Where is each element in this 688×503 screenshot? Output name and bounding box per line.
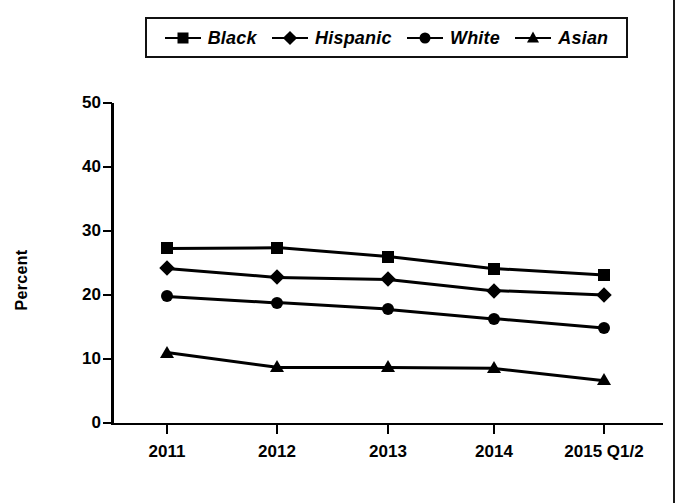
legend-label: White bbox=[450, 29, 500, 47]
legend-item-black: Black bbox=[165, 29, 257, 47]
series-line-segment bbox=[494, 367, 604, 382]
circle-marker-icon bbox=[419, 32, 430, 43]
data-point-triangle-marker-icon bbox=[381, 360, 395, 372]
data-point-triangle-marker-icon bbox=[597, 373, 611, 385]
y-axis-tick bbox=[103, 166, 112, 168]
legend-item-asian: Asian bbox=[515, 29, 608, 47]
legend-marker-diamond-icon bbox=[272, 30, 308, 46]
y-axis-title: Percent bbox=[13, 250, 31, 311]
page-border-rule bbox=[673, 0, 675, 503]
legend-item-white: White bbox=[407, 29, 500, 47]
x-axis-tick bbox=[603, 424, 605, 434]
diamond-marker-icon bbox=[283, 30, 297, 44]
y-axis-tick bbox=[103, 294, 112, 296]
series-asian bbox=[113, 103, 663, 423]
series-line-segment bbox=[277, 366, 388, 369]
legend-items: BlackHispanicWhiteAsian bbox=[147, 19, 626, 56]
data-point-triangle-marker-icon bbox=[487, 361, 501, 373]
series-line-segment bbox=[167, 351, 277, 368]
y-axis-tick bbox=[103, 102, 112, 104]
x-axis-tick bbox=[276, 424, 278, 434]
y-axis-tick bbox=[103, 422, 112, 424]
x-axis-tick-label: 2013 bbox=[369, 442, 407, 462]
legend-label: Asian bbox=[558, 29, 608, 47]
y-axis-tick-label: 40 bbox=[67, 157, 101, 177]
data-point-triangle-marker-icon bbox=[160, 346, 174, 358]
data-point-triangle-marker-icon bbox=[270, 360, 284, 372]
legend-item-hispanic: Hispanic bbox=[272, 29, 392, 47]
chart-figure: BlackHispanicWhiteAsian Percent 01020304… bbox=[0, 0, 688, 503]
x-axis-tick bbox=[387, 424, 389, 434]
legend-label: Black bbox=[208, 29, 257, 47]
chart-legend: BlackHispanicWhiteAsian bbox=[145, 17, 628, 58]
y-axis-tick bbox=[103, 358, 112, 360]
x-axis-tick-label: 2012 bbox=[258, 442, 296, 462]
x-axis-tick bbox=[493, 424, 495, 434]
legend-marker-triangle-icon bbox=[515, 30, 551, 46]
x-axis-tick-label: 2011 bbox=[149, 442, 186, 462]
x-axis-tick-label: 2015 Q1/2 bbox=[564, 442, 643, 462]
y-axis-tick-label: 0 bbox=[67, 413, 101, 433]
triangle-marker-icon bbox=[527, 31, 539, 42]
legend-marker-circle-icon bbox=[407, 30, 443, 46]
series-line-segment bbox=[388, 366, 494, 369]
y-axis-tick bbox=[103, 230, 112, 232]
x-axis-tick bbox=[166, 424, 168, 434]
y-axis-tick-label: 30 bbox=[67, 221, 101, 241]
plot-area: 0102030405020112012201320142015 Q1/2 bbox=[113, 103, 663, 423]
y-axis-tick-label: 20 bbox=[67, 285, 101, 305]
x-axis-tick-label: 2014 bbox=[475, 442, 513, 462]
y-axis-tick-label: 10 bbox=[67, 349, 101, 369]
y-axis-tick-label: 50 bbox=[67, 93, 101, 113]
legend-label: Hispanic bbox=[315, 29, 392, 47]
legend-marker-square-icon bbox=[165, 30, 201, 46]
square-marker-icon bbox=[177, 32, 188, 43]
